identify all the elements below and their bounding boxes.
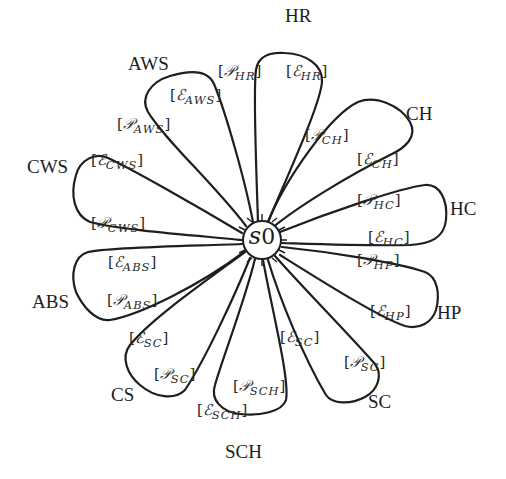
edge-label-e-sc-right: [ℰSC] (280, 330, 319, 345)
edge-label-subscript: HP (385, 309, 405, 323)
edge-label-bracket-close: ] (139, 214, 145, 232)
node-label-sch: SCH (225, 442, 262, 461)
edge-label-e-cws: [ℰCWS] (91, 153, 143, 168)
edge-label-e-abs: [ℰABS] (108, 255, 156, 270)
edge-label-bracket-close: ] (164, 115, 170, 133)
edge-label-subscript: HC (374, 198, 395, 212)
edge-label-e-ch: [ℰCH] (357, 152, 399, 167)
edge-label-symbol: 𝒫 (363, 191, 374, 209)
edge-label-bracket-close: ] (256, 62, 262, 80)
edge-label-subscript: SC (171, 372, 190, 386)
center-subscript: 0 (261, 224, 275, 249)
edge-label-bracket-close: ] (394, 251, 400, 269)
loop-abs (73, 244, 244, 320)
node-label-hc: HC (450, 199, 476, 218)
edge-label-bracket-close: ] (343, 126, 349, 144)
edge-label-p-sc-left: [𝒫SC] (154, 367, 195, 382)
edge-label-p-abs: [𝒫ABS] (107, 293, 157, 308)
center-state-label: s0 (241, 224, 283, 248)
edge-label-bracket-close: ] (190, 365, 196, 383)
edge-label-symbol: 𝒫 (224, 62, 235, 80)
edge-label-p-hc: [𝒫HC] (357, 193, 401, 208)
edge-label-subscript: AWS (185, 93, 216, 107)
edge-label-symbol: 𝒫 (97, 214, 108, 232)
edge-label-subscript: SC (144, 336, 163, 350)
edge-label-symbol: ℰ (97, 151, 106, 169)
edge-label-symbol: ℰ (376, 302, 385, 320)
edge-label-subscript: SC (295, 335, 314, 349)
edge-label-bracket-close: ] (151, 253, 157, 271)
edge-label-bracket-close: ] (163, 329, 169, 347)
edge-label-e-aws: [ℰAWS] (170, 88, 221, 103)
edge-label-bracket-close: ] (280, 377, 286, 395)
edge-label-symbol: ℰ (114, 253, 123, 271)
edge-label-symbol: 𝒫 (160, 365, 171, 383)
edge-label-bracket-close: ] (395, 191, 401, 209)
edge-label-symbol: ℰ (363, 150, 372, 168)
node-label-hr: HR (285, 6, 311, 25)
edge-label-symbol: ℰ (203, 401, 212, 419)
edge-label-symbol: ℰ (176, 86, 185, 104)
node-label-hp: HP (437, 303, 461, 322)
edge-label-bracket-close: ] (380, 353, 386, 371)
node-label-sc: SC (368, 392, 391, 411)
edge-label-bracket-close: ] (242, 401, 248, 419)
edge-label-symbol: 𝒫 (123, 115, 134, 133)
edge-label-bracket-close: ] (314, 328, 320, 346)
edge-label-symbol: ℰ (135, 329, 144, 347)
edge-label-bracket-close: ] (215, 86, 221, 104)
edge-label-subscript: HR (301, 69, 322, 83)
edge-label-symbol: ℰ (374, 228, 383, 246)
edge-label-subscript: ABS (124, 298, 152, 312)
node-label-aws: AWS (128, 54, 169, 73)
edge-label-p-sch: [𝒫SCH] (233, 379, 285, 394)
edge-label-bracket-close: ] (405, 302, 411, 320)
edge-label-p-aws: [𝒫AWS] (117, 117, 170, 132)
center-symbol: s (249, 222, 261, 250)
edge-label-p-hp: [𝒫HP] (357, 253, 400, 268)
edge-label-subscript: SC (361, 360, 380, 374)
edge-label-p-sc-right: [𝒫SC] (344, 355, 385, 370)
edge-label-subscript: CWS (108, 221, 140, 235)
edge-label-subscript: HR (235, 69, 256, 83)
edge-label-p-ch: [𝒫CH] (305, 128, 349, 143)
edge-label-p-cws: [𝒫CWS] (91, 216, 145, 231)
node-label-abs: ABS (32, 292, 69, 311)
edge-label-symbol: ℰ (292, 62, 301, 80)
edge-label-e-sch: [ℰSCH] (197, 403, 247, 418)
edge-label-bracket-close: ] (393, 150, 399, 168)
edge-label-bracket-close: ] (137, 151, 143, 169)
edge-label-p-hr: [𝒫HR] (218, 64, 261, 79)
edge-label-subscript: HC (383, 235, 404, 249)
edge-label-e-sc-left: [ℰSC] (129, 331, 168, 346)
edge-label-symbol: 𝒫 (239, 377, 250, 395)
edge-label-subscript: CWS (106, 158, 138, 172)
edge-label-e-hr: [ℰHR] (286, 64, 327, 79)
edge-label-symbol: 𝒫 (350, 353, 361, 371)
edge-label-bracket-close: ] (404, 228, 410, 246)
edge-label-subscript: CH (372, 157, 393, 171)
edge-label-bracket-close: ] (152, 291, 158, 309)
edge-label-subscript: HP (374, 258, 394, 272)
node-label-cws: CWS (27, 157, 68, 176)
node-label-ch: CH (406, 104, 432, 123)
edge-label-subscript: ABS (123, 260, 151, 274)
edge-label-symbol: 𝒫 (113, 291, 124, 309)
edge-label-symbol: 𝒫 (363, 251, 374, 269)
edge-label-symbol: ℰ (286, 328, 295, 346)
edge-label-e-hp: [ℰHP] (370, 304, 411, 319)
edge-label-symbol: 𝒫 (311, 126, 322, 144)
edge-label-subscript: SCH (250, 384, 280, 398)
edge-label-subscript: SCH (212, 408, 242, 422)
edge-label-subscript: CH (322, 133, 343, 147)
edge-label-subscript: AWS (134, 122, 165, 136)
edge-label-bracket-close: ] (322, 62, 328, 80)
node-label-cs: CS (111, 385, 134, 404)
edge-label-e-hc: [ℰHC] (368, 230, 410, 245)
